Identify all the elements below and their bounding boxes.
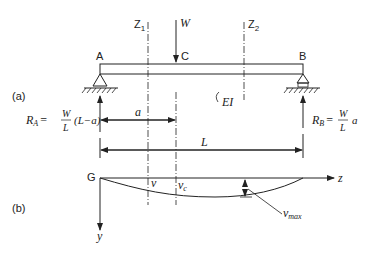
section-z1-label: Z1 — [134, 18, 146, 33]
svg-text:W: W — [62, 108, 72, 119]
part-a-label: (a) — [12, 90, 25, 102]
deflection-curve — [100, 178, 303, 197]
reaction-a-formula: RA= W L (L−a) — [25, 108, 101, 133]
point-b-label: B — [299, 50, 306, 62]
reaction-b-formula: RB= W L a — [311, 108, 358, 133]
dim-a-label: a — [135, 105, 141, 119]
pin-support-a — [82, 74, 118, 93]
svg-text:L: L — [62, 122, 69, 133]
dim-l-label: L — [200, 135, 208, 149]
svg-text:RB=: RB= — [311, 113, 333, 128]
point-a-label: A — [96, 50, 104, 62]
vmax-indicator — [240, 180, 282, 214]
svg-text:RA=: RA= — [25, 113, 47, 128]
section-z2-label: Z2 — [248, 18, 260, 33]
point-g-label: G — [87, 171, 96, 183]
svg-text:(L−a): (L−a) — [74, 114, 101, 127]
roller-support-b — [284, 74, 320, 93]
beam — [100, 64, 303, 74]
load-label: W — [180, 16, 191, 30]
deflection-vc-label: vc — [178, 178, 187, 193]
svg-text:a: a — [352, 114, 358, 126]
beam-deflection-diagram: (a) (b) A B C G Z1 Z2 W EI a L z y v vc … — [0, 0, 365, 253]
y-axis-label: y — [96, 229, 103, 243]
svg-text:W: W — [339, 108, 349, 119]
svg-text:L: L — [339, 122, 346, 133]
point-c-label: C — [181, 50, 189, 62]
ei-marker — [216, 92, 219, 102]
z-axis-label: z — [337, 171, 343, 185]
diagram-canvas: (a) (b) A B C G Z1 Z2 W EI a L z y v vc … — [0, 0, 365, 253]
rigidity-label: EI — [221, 95, 234, 109]
deflection-vmax-label: vmax — [283, 206, 302, 221]
part-b-label: (b) — [12, 202, 25, 214]
deflection-v-label: v — [151, 176, 157, 190]
